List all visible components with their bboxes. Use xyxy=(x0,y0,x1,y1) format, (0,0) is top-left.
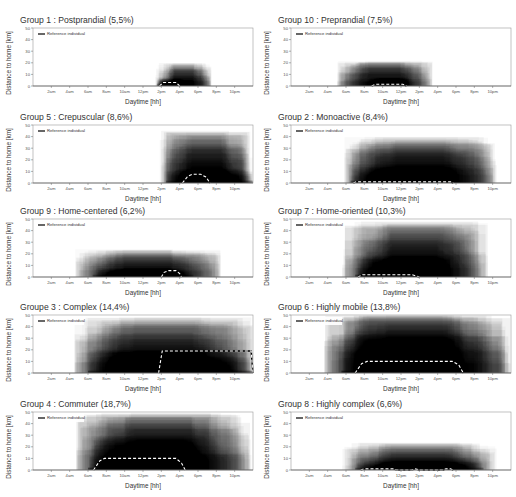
x-tick-label: 2pm xyxy=(415,89,424,94)
legend: Reference individual xyxy=(294,30,343,38)
x-tick-label: 10pm xyxy=(229,186,240,191)
y-tick-label: 10 xyxy=(25,72,30,77)
x-tick-label: 8pm xyxy=(212,89,221,94)
y-tick-label: 30 xyxy=(283,336,288,341)
x-tick-label: 2am xyxy=(305,186,314,191)
x-tick-label: 8am xyxy=(102,89,111,94)
x-tick-label: 8am xyxy=(102,473,111,478)
y-tick-label: 50 xyxy=(283,217,288,222)
y-tick-label: 0 xyxy=(286,84,289,89)
legend: Reference individual xyxy=(294,127,343,135)
x-tick-label: 2pm xyxy=(415,376,424,381)
x-tick-label: 2am xyxy=(47,473,56,478)
density-traces xyxy=(344,137,497,183)
x-tick-label: 10am xyxy=(377,186,388,191)
x-tick-label: 2pm xyxy=(157,376,166,381)
y-tick-label: 10 xyxy=(25,456,30,461)
x-tick-label: 4pm xyxy=(434,89,443,94)
x-tick-label: 10pm xyxy=(487,186,498,191)
x-tick-label: 4pm xyxy=(434,186,443,191)
x-tick-label: 10am xyxy=(377,89,388,94)
y-tick-label: 10 xyxy=(283,72,288,77)
y-tick-label: 20 xyxy=(283,157,288,162)
y-tick-label: 10 xyxy=(283,169,288,174)
y-tick-label: 0 xyxy=(286,468,289,473)
x-tick-label: 2am xyxy=(305,89,314,94)
x-tick-label: 2pm xyxy=(157,186,166,191)
x-tick-label: 8am xyxy=(360,186,369,191)
y-tick-label: 30 xyxy=(283,49,288,54)
x-tick-label: 6pm xyxy=(194,186,203,191)
x-tick-label: 12pm xyxy=(138,473,149,478)
x-tick-label: 8pm xyxy=(212,280,221,285)
x-tick-label: 6pm xyxy=(452,280,461,285)
x-tick-label: 10pm xyxy=(229,280,240,285)
y-tick-label: 50 xyxy=(283,410,288,415)
legend-label: Reference individual xyxy=(47,128,85,133)
x-tick-label: 4pm xyxy=(176,280,185,285)
density-traces xyxy=(76,413,251,470)
y-tick-label: 30 xyxy=(25,49,30,54)
x-tick-label: 8pm xyxy=(470,473,479,478)
panel-group-3: Groupe 3 : Complex (14,4%) Distance to h… xyxy=(0,297,256,396)
y-tick-label: 0 xyxy=(28,84,31,89)
density-traces xyxy=(337,61,433,86)
x-tick-label: 4am xyxy=(324,473,333,478)
y-tick-label: 10 xyxy=(283,359,288,364)
y-tick-label: 50 xyxy=(25,410,30,415)
x-tick-label: 6pm xyxy=(194,280,203,285)
x-tick-label: 2pm xyxy=(415,473,424,478)
x-tick-label: 10am xyxy=(119,473,130,478)
legend-label: Reference individual xyxy=(305,222,343,227)
y-tick-label: 20 xyxy=(25,444,30,449)
x-tick-label: 6pm xyxy=(194,89,203,94)
y-tick-label: 50 xyxy=(283,26,288,31)
legend-label: Reference individual xyxy=(305,318,343,323)
x-tick-label: 10pm xyxy=(229,473,240,478)
x-tick-label: 8pm xyxy=(470,89,479,94)
y-tick-label: 10 xyxy=(25,359,30,364)
x-tick-label: 2pm xyxy=(415,186,424,191)
x-tick-label: 2am xyxy=(47,376,56,381)
density-traces xyxy=(324,315,511,373)
y-tick-label: 50 xyxy=(25,313,30,318)
x-tick-label: 2am xyxy=(305,280,314,285)
y-tick-label: 0 xyxy=(28,468,31,473)
x-tick-label: 12pm xyxy=(138,280,149,285)
x-tick-label: 4am xyxy=(66,89,75,94)
y-tick-label: 40 xyxy=(25,37,30,42)
x-tick-label: 12pm xyxy=(396,186,407,191)
y-tick-label: 20 xyxy=(25,251,30,256)
y-tick-label: 20 xyxy=(283,251,288,256)
legend-label: Reference individual xyxy=(305,31,343,36)
y-tick-label: 50 xyxy=(25,26,30,31)
y-tick-label: 10 xyxy=(25,263,30,268)
y-tick-label: 0 xyxy=(28,371,31,376)
density-plot: 010203040502am4am6am8am10am12pm2pm4pm6pm… xyxy=(0,10,256,109)
x-tick-label: 8am xyxy=(360,376,369,381)
x-tick-label: 10pm xyxy=(487,473,498,478)
x-tick-label: 8pm xyxy=(470,280,479,285)
y-tick-label: 20 xyxy=(283,347,288,352)
y-tick-label: 40 xyxy=(283,134,288,139)
legend-label: Reference individual xyxy=(47,31,85,36)
x-tick-label: 10am xyxy=(119,186,130,191)
x-tick-label: 2am xyxy=(47,280,56,285)
panel-group-7: Group 7 : Home-oriented (10,3%) Distance… xyxy=(258,201,514,300)
legend-label: Reference individual xyxy=(305,415,343,420)
panel-group-8: Group 8 : Highly complex (6,6%) Distance… xyxy=(258,394,514,493)
density-plot: 010203040502am4am6am8am10am12pm2pm4pm6pm… xyxy=(258,394,514,493)
density-plot: 010203040502am4am6am8am10am12pm2pm4pm6pm… xyxy=(258,297,514,396)
x-tick-label: 6am xyxy=(342,376,351,381)
x-tick-label: 4am xyxy=(66,186,75,191)
density-plot: 010203040502am4am6am8am10am12pm2pm4pm6pm… xyxy=(258,10,514,109)
y-tick-label: 30 xyxy=(25,433,30,438)
x-tick-label: 8am xyxy=(360,280,369,285)
x-tick-label: 10am xyxy=(119,89,130,94)
x-tick-label: 8pm xyxy=(212,376,221,381)
x-tick-label: 6am xyxy=(342,473,351,478)
panel-group-10: Group 10 : Preprandial (7,5%) Distance t… xyxy=(258,10,514,109)
x-tick-label: 10pm xyxy=(487,89,498,94)
x-tick-label: 6pm xyxy=(452,473,461,478)
x-tick-label: 10pm xyxy=(229,89,240,94)
